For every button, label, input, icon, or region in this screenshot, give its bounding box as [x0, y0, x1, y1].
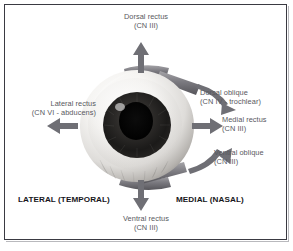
- label-lateral-rectus-name: Lateral rectus: [51, 99, 96, 108]
- label-medial-rectus-nerve: (CN III): [222, 124, 290, 133]
- eye-muscle-diagram: Dorsal rectus (CN III) Ventral rectus (C…: [0, 0, 293, 251]
- label-lateral-rectus-nerve: (CN VI - abducens): [4, 108, 96, 117]
- arrow-left-icon: [47, 118, 78, 134]
- label-medial-rectus: Medial rectus (CN III): [222, 115, 290, 133]
- label-lateral-temporal: LATERAL (TEMPORAL): [18, 195, 110, 204]
- label-dorsal-oblique: Dorsal oblique (CN IV - trochlear): [200, 88, 292, 106]
- label-medial-rectus-name: Medial rectus: [222, 115, 267, 124]
- arrow-right-icon: [192, 118, 223, 134]
- label-dorsal-oblique-nerve: (CN IV - trochlear): [200, 97, 292, 106]
- label-dorsal-oblique-name: Dorsal oblique: [200, 88, 248, 97]
- corneal-highlight: [115, 103, 125, 111]
- label-ventral-rectus-name: Ventral rectus: [123, 214, 169, 223]
- label-lateral-rectus: Lateral rectus (CN VI - abducens): [4, 99, 96, 117]
- diagram-stage: Dorsal rectus (CN III) Ventral rectus (C…: [0, 0, 293, 251]
- label-ventral-oblique-name: Ventral oblique: [214, 148, 264, 157]
- label-ventral-rectus: Ventral rectus (CN III): [96, 214, 196, 232]
- label-dorsal-rectus-nerve: (CN III): [96, 21, 196, 30]
- label-dorsal-rectus: Dorsal rectus (CN III): [96, 12, 196, 30]
- label-ventral-oblique-nerve: (CN III): [214, 157, 292, 166]
- label-medial-nasal: MEDIAL (NASAL): [176, 195, 244, 204]
- label-dorsal-rectus-name: Dorsal rectus: [124, 12, 168, 21]
- label-ventral-oblique: Ventral oblique (CN III): [214, 148, 292, 166]
- label-ventral-rectus-nerve: (CN III): [96, 223, 196, 232]
